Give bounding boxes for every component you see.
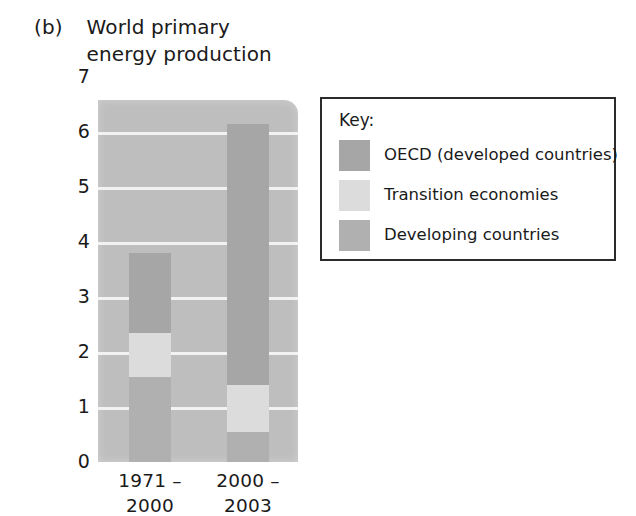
legend-item-label: Transition economies	[384, 185, 558, 205]
legend-item-label: Developing countries	[384, 225, 559, 245]
y-axis-tick-labels: 76543210	[60, 0, 90, 511]
bar-1[interactable]	[129, 253, 171, 462]
legend-item-1[interactable]: OECD (developed countries)	[339, 139, 618, 171]
legend-item-3[interactable]: Developing countries	[339, 219, 559, 251]
bar-segment[interactable]	[129, 377, 171, 462]
bar-2[interactable]	[227, 124, 269, 462]
y-tick-label-5: 5	[64, 177, 90, 196]
x-tick-label-2: 2000 – 2003	[188, 468, 308, 516]
bar-segment[interactable]	[227, 432, 269, 462]
y-tick-label-7: 7	[64, 67, 90, 86]
bar-segment[interactable]	[227, 385, 269, 432]
y-tick-label-0: 0	[64, 452, 90, 471]
y-tick-label-1: 1	[64, 397, 90, 416]
y-tick-label-6: 6	[64, 122, 90, 141]
bar-segment[interactable]	[129, 253, 171, 333]
y-tick-label-3: 3	[64, 287, 90, 306]
bar-segment[interactable]	[227, 124, 269, 385]
legend-item-label: OECD (developed countries)	[384, 145, 618, 165]
legend-swatch-icon	[339, 180, 370, 211]
legend-title: Key:	[339, 110, 374, 130]
bar-segment[interactable]	[129, 333, 171, 377]
y-tick-label-4: 4	[64, 232, 90, 251]
legend-swatch-icon	[339, 220, 370, 251]
y-tick-label-2: 2	[64, 342, 90, 361]
chart-legend: Key: OECD (developed countries)Transitio…	[320, 97, 616, 261]
legend-swatch-icon	[339, 140, 370, 171]
legend-item-2[interactable]: Transition economies	[339, 179, 558, 211]
